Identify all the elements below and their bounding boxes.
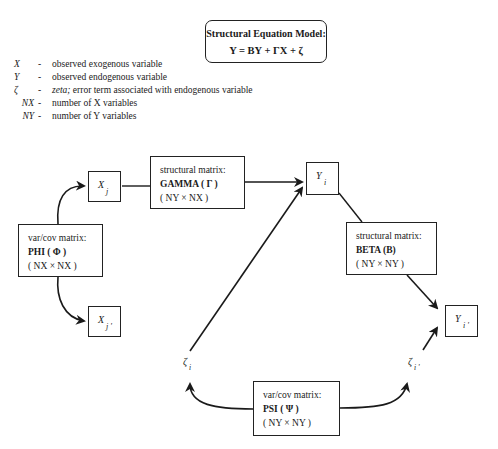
- node-zeta-i-prime: ζi ': [408, 356, 418, 367]
- legend-item-x: X - observed exogenous variable: [12, 58, 253, 71]
- legend-item-ny: NY - number of Y variables: [12, 110, 253, 123]
- node-y-i-prime: Y i ': [445, 305, 478, 337]
- node-x-j: X j: [88, 171, 121, 202]
- matrix-beta: structural matrix: BETA (B) ( NY × NY ): [346, 222, 437, 275]
- legend-item-y: Y - observed endogenous variable: [12, 71, 253, 84]
- node-zeta-i: ζi: [183, 356, 189, 367]
- legend: X - observed exogenous variable Y - obse…: [12, 58, 253, 123]
- legend-item-nx: NX - number of X variables: [12, 97, 253, 110]
- model-title: Structural Equation Model:: [206, 28, 326, 39]
- model-equation: Y = BY + ΓX + ζ: [206, 45, 326, 56]
- matrix-phi: var/cov matrix: PHI ( Φ ) ( NX × NX ): [18, 224, 103, 277]
- matrix-gamma: structural matrix: GAMMA ( Γ ) ( NY × NX…: [150, 156, 245, 209]
- matrix-psi: var/cov matrix: PSI ( Ψ ) ( NY × NY ): [253, 381, 340, 436]
- node-y-i: Y i: [306, 162, 339, 195]
- legend-item-zeta: ζ - zeta; error term associated with end…: [12, 84, 253, 97]
- node-x-j-prime: X j ': [88, 306, 121, 337]
- model-title-box: Structural Equation Model: Y = BY + ΓX +…: [205, 20, 327, 63]
